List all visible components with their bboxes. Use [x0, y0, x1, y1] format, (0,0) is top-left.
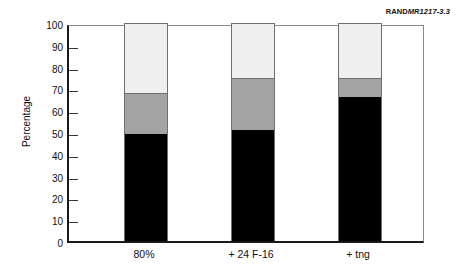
- y-axis-tick-label: 20: [23, 194, 63, 205]
- x-axis-tick-labels: 80%+ 24 F-16+ tng: [67, 248, 424, 268]
- bar-segment-middle-segment: [339, 78, 381, 98]
- y-axis-tick-label: 70: [23, 85, 63, 96]
- y-axis-tick-label: 100: [23, 20, 63, 31]
- bar-segment-bottom-segment: [232, 130, 274, 241]
- y-axis-tick-label: 80: [23, 63, 63, 74]
- bar-stack: [338, 23, 382, 241]
- bar-stack: [124, 23, 168, 241]
- y-axis-tick-label: 0: [23, 238, 63, 249]
- y-axis-tick-label: 60: [23, 107, 63, 118]
- bar-segment-middle-segment: [232, 78, 274, 130]
- bar-segment-bottom-segment: [125, 134, 167, 241]
- x-axis-tick-label: + 24 F-16: [191, 248, 311, 260]
- y-axis-tick: [69, 157, 78, 158]
- bar-segment-top-segment: [125, 23, 167, 93]
- figure-credit: RANDMR1217-3.3: [386, 7, 450, 16]
- y-axis-tick: [69, 135, 78, 136]
- y-axis-tick: [69, 113, 78, 114]
- y-axis-tick-labels: 0102030405060708090100: [19, 25, 63, 243]
- bar-segment-top-segment: [232, 23, 274, 78]
- y-axis-tick: [69, 179, 78, 180]
- x-axis-tick-label: + tng: [298, 248, 418, 260]
- figure-credit-prefix: RAND: [386, 7, 408, 16]
- plot-area: [67, 25, 424, 243]
- y-axis-tick: [69, 70, 78, 71]
- y-axis-tick: [69, 222, 78, 223]
- x-axis-tick-label: 80%: [84, 248, 204, 260]
- y-axis-tick-label: 10: [23, 216, 63, 227]
- bar-stack: [231, 23, 275, 241]
- y-axis-tick-label: 30: [23, 172, 63, 183]
- y-axis-tick: [69, 200, 78, 201]
- y-axis-tick-label: 90: [23, 41, 63, 52]
- bar-segment-middle-segment: [125, 93, 167, 134]
- y-axis-tick-label: 40: [23, 150, 63, 161]
- y-axis-tick-label: 50: [23, 129, 63, 140]
- chart-figure: RANDMR1217-3.3 Percentage 01020304050607…: [0, 0, 460, 271]
- y-axis-tick: [69, 48, 78, 49]
- bar-segment-bottom-segment: [339, 97, 381, 241]
- y-axis-tick: [69, 91, 78, 92]
- figure-credit-number: MR1217-3.3: [408, 7, 450, 16]
- bar-segment-top-segment: [339, 23, 381, 78]
